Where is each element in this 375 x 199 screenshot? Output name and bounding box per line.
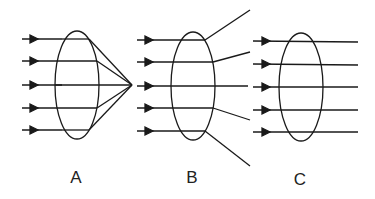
arrow-icon xyxy=(145,36,153,44)
lens-diagram: A B C xyxy=(0,0,375,199)
arrow-icon xyxy=(262,83,270,91)
panel-b-diverging-lens xyxy=(137,10,250,166)
incoming-rays-b xyxy=(137,36,248,135)
arrow-icon xyxy=(262,37,270,45)
diverging-rays-b xyxy=(205,10,250,166)
panel-label-a: A xyxy=(70,168,82,187)
arrow-icon xyxy=(30,104,38,112)
arrow-icon xyxy=(262,106,270,114)
panel-a-converging-lens xyxy=(22,31,132,139)
lens-rays-a xyxy=(55,39,132,130)
arrow-icon xyxy=(30,57,38,65)
panel-c-flat-lens xyxy=(253,33,358,141)
arrow-icon xyxy=(30,81,38,89)
parallel-rays-c xyxy=(253,37,358,136)
arrow-icon xyxy=(145,104,153,112)
arrow-icon xyxy=(262,60,270,68)
panel-label-c: C xyxy=(294,170,306,189)
arrow-icon xyxy=(30,35,38,43)
arrow-icon xyxy=(145,58,153,66)
arrow-icon xyxy=(30,126,38,134)
arrow-icon xyxy=(145,127,153,135)
arrow-icon xyxy=(262,128,270,136)
panel-label-b: B xyxy=(186,168,197,187)
arrow-icon xyxy=(145,82,153,90)
